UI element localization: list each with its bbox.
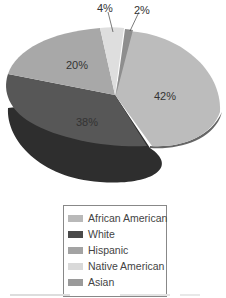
- legend-swatch-native-american: [68, 263, 83, 270]
- label-native-american: 4%: [97, 2, 113, 14]
- chart-legend: African American White Hispanic Native A…: [63, 205, 167, 297]
- legend-swatch-asian: [68, 279, 83, 286]
- pie-chart: 2% 4% 20% 42% 38%: [0, 0, 226, 210]
- legend-item-hispanic: Hispanic: [68, 242, 166, 258]
- legend-item-african-american: African American: [68, 210, 166, 226]
- legend-swatch-white: [68, 231, 83, 238]
- legend-swatch-african-american: [68, 215, 83, 222]
- legend-item-asian: Asian: [68, 274, 166, 290]
- legend-item-white: White: [68, 226, 166, 242]
- legend-label: White: [88, 228, 115, 240]
- label-hispanic: 20%: [66, 59, 88, 71]
- legend-item-native-american: Native American: [68, 258, 166, 274]
- label-white: 38%: [76, 116, 98, 128]
- legend-swatch-hispanic: [68, 247, 83, 254]
- legend-label: Native American: [88, 260, 164, 272]
- clipped-caption-fragment: [0, 292, 226, 298]
- legend-label: Hispanic: [88, 244, 128, 256]
- legend-label: African American: [88, 212, 167, 224]
- legend-label: Asian: [88, 276, 114, 288]
- label-asian: 2%: [134, 4, 150, 16]
- label-african-american: 42%: [154, 90, 176, 102]
